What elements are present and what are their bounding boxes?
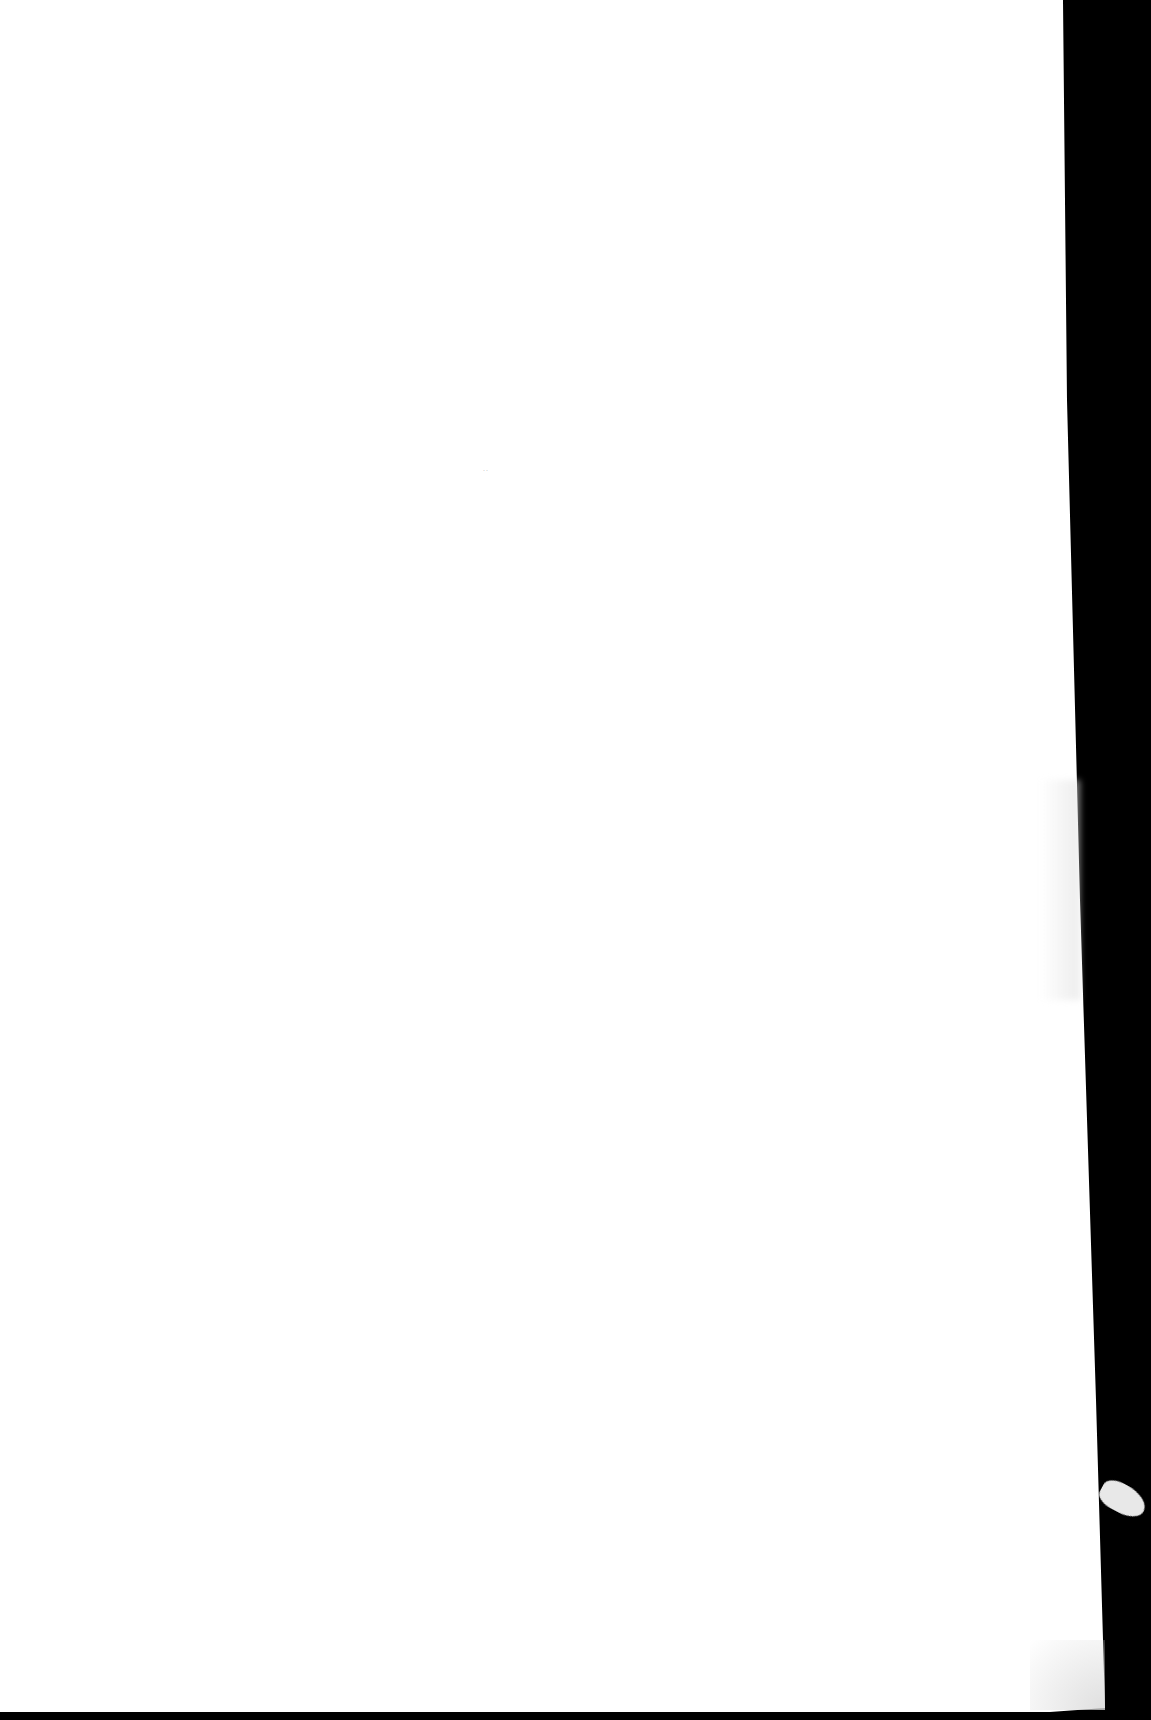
torn-paper-fragment <box>1095 1475 1151 1522</box>
page-edge-shadow <box>1040 780 1080 1000</box>
blank-page: ·· <box>0 0 1151 1720</box>
dust-speck: ·· <box>483 468 489 474</box>
page-corner-shadow <box>1030 1640 1105 1710</box>
scanner-background: ·· <box>0 0 1151 1720</box>
